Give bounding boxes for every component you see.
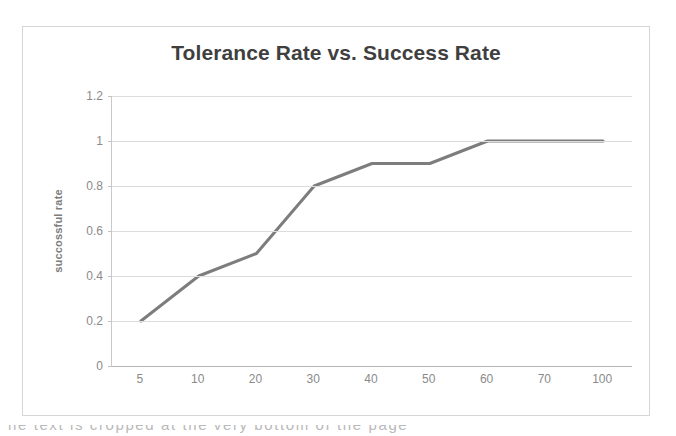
cropped-caption-text: he text is cropped at the very bottom of… [8,425,408,433]
y-axis-tick-label: 1 [96,134,103,148]
gridline [112,186,632,187]
x-axis-tick-label: 50 [400,372,458,392]
y-axis-tick-mark [108,186,112,187]
y-axis-tick-label: 0.6 [86,224,103,238]
y-axis-tick-mark [108,276,112,277]
x-axis-tick-label: 70 [515,372,573,392]
cropped-caption: he text is cropped at the very bottom of… [0,425,676,436]
x-axis-tick-label: 60 [458,372,516,392]
y-axis-tick-label: 0.2 [86,314,103,328]
y-axis-tick-mark [108,96,112,97]
y-axis-tick-mark [108,366,112,367]
x-axis-tick-label: 5 [111,372,169,392]
y-axis-title-label: succossful rate [52,189,64,273]
y-axis-tick-mark [108,321,112,322]
gridline [112,96,632,97]
chart-title: Tolerance Rate vs. Success Rate [23,41,649,65]
x-axis-tick-label: 40 [342,372,400,392]
gridline [112,276,632,277]
y-axis-tick-label: 0.8 [86,179,103,193]
x-axis-tick-label: 10 [169,372,227,392]
gridline [112,366,632,367]
x-axis-tick-label: 20 [227,372,285,392]
y-axis-tick-label: 0 [96,359,103,373]
x-axis-tick-label: 100 [573,372,631,392]
x-axis-tick-label: 30 [284,372,342,392]
gridline [112,321,632,322]
y-axis-tick-label: 0.4 [86,269,103,283]
y-axis-tick-mark [108,231,112,232]
y-axis-title: succossful rate [50,96,66,366]
gridline [112,231,632,232]
x-axis-tick-labels: 510203040506070100 [111,372,631,392]
y-axis-tick-mark [108,141,112,142]
y-axis-tick-label: 1.2 [86,89,103,103]
gridline [112,141,632,142]
scanned-page: Tolerance Rate vs. Success Rate succossf… [0,0,676,436]
chart-frame: Tolerance Rate vs. Success Rate succossf… [22,26,650,416]
plot-area: 00.20.40.60.811.2 [111,96,632,367]
